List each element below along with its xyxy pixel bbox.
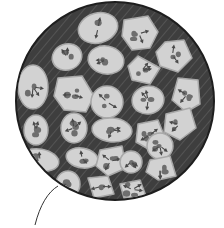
spot	[123, 190, 130, 197]
cell-section-diagram	[0, 0, 224, 228]
spot	[75, 89, 80, 93]
spot	[71, 130, 77, 136]
spot	[69, 54, 74, 60]
spot	[25, 90, 31, 97]
spot	[141, 98, 147, 102]
spot	[102, 104, 107, 108]
cell-blob	[24, 115, 48, 145]
figure-caption	[0, 214, 224, 228]
cell-blob	[18, 65, 48, 109]
cell-blob	[120, 151, 142, 173]
spot	[136, 71, 141, 76]
spot	[148, 97, 155, 102]
spot	[132, 32, 138, 37]
spot	[153, 140, 159, 145]
cell-blob	[91, 86, 123, 118]
spot	[104, 94, 109, 99]
spot	[162, 165, 167, 172]
cell-blob	[61, 113, 87, 143]
cell-blob	[147, 133, 173, 159]
spot	[130, 37, 137, 41]
spot	[186, 94, 191, 101]
spot	[176, 52, 181, 58]
spot	[32, 132, 39, 137]
